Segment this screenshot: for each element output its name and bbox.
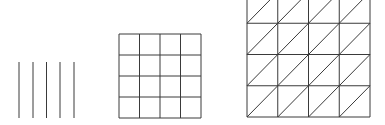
cell-diagonal-line [278, 0, 309, 23]
cell-diagonal-line [309, 23, 340, 54]
cell-diagonal-line [309, 86, 340, 117]
cell-diagonal-line [309, 55, 340, 86]
cell-diagonal-line [278, 86, 309, 117]
cell-diagonal-line [278, 55, 309, 86]
parallel-lines-figure [19, 62, 74, 118]
cell-diagonal-line [339, 55, 370, 86]
cell-diagonal-line [339, 23, 370, 54]
triangulated-grid-figure [247, 0, 370, 117]
cell-diagonal-line [247, 23, 278, 54]
cell-diagonal-line [247, 55, 278, 86]
cell-diagonal-line [339, 0, 370, 23]
cell-diagonal-line [339, 86, 370, 117]
cell-diagonal-line [278, 23, 309, 54]
square-grid-figure [119, 34, 201, 118]
cell-diagonal-line [247, 0, 278, 23]
diagram-canvas [0, 0, 385, 125]
cell-diagonal-line [309, 0, 340, 23]
cell-diagonal-line [247, 86, 278, 117]
